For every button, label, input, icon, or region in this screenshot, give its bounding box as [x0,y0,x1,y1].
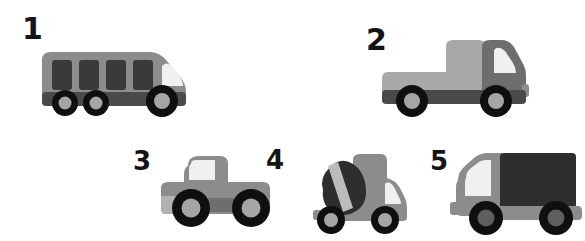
illustration-canvas: 1 2 [0,0,585,241]
truck-wheel-hub [488,93,504,109]
bus-wheel-hub [154,93,170,109]
truck-cargo-bed [382,40,485,98]
vehicle-number-5: 5 [430,148,448,174]
boxtruck-wheel-hub [548,210,565,227]
cement-mixer-icon [303,152,415,238]
vehicle-pickup-car [158,152,276,234]
car-wheel-hub [182,199,201,218]
pickup-car-icon [158,152,276,234]
boxtruck-wheel-hub [478,210,495,227]
boxtruck-cargo-box [500,153,576,209]
mixer-wheel-hub [378,213,392,227]
bus-windshield [162,64,183,87]
bus-wheel-hub [59,97,72,110]
bus-window [133,60,153,90]
dump-truck-icon [378,36,530,122]
vehicle-box-truck [450,150,582,238]
boxtruck-bumper [450,202,459,215]
vehicle-dump-truck [378,36,530,122]
car-windshield [189,160,215,180]
box-truck-icon [450,150,582,238]
truck-wheel-hub [404,93,420,109]
vehicle-bus [38,46,196,120]
vehicle-number-3: 3 [133,148,151,174]
bus-window [106,60,126,90]
bus-icon [38,46,196,120]
vehicle-cement-mixer-truck [303,152,415,238]
bus-window [52,60,72,90]
vehicle-number-4: 4 [266,147,284,173]
car-wheel-hub [242,199,261,218]
mixer-wheel-hub [324,213,338,227]
bus-window [79,60,99,90]
vehicle-number-1: 1 [22,14,43,44]
bus-wheel-hub [90,97,103,110]
